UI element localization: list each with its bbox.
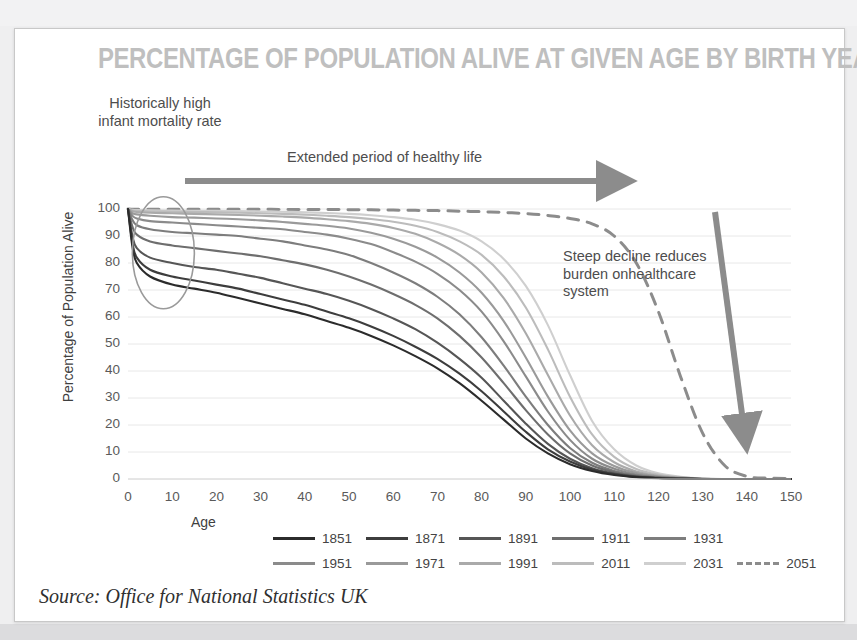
legend-item-1871[interactable]: 1871: [366, 531, 445, 546]
x-tick-label: 0: [108, 489, 148, 504]
x-tick-label: 70: [417, 489, 457, 504]
y-tick-label: 80: [76, 254, 120, 269]
x-tick-label: 10: [152, 489, 192, 504]
y-tick-label: 60: [76, 308, 120, 323]
legend-item-1971[interactable]: 1971: [366, 556, 445, 571]
legend-item-1911[interactable]: 1911: [552, 531, 630, 546]
legend-label: 1951: [322, 556, 352, 571]
legend-item-2031[interactable]: 2031: [644, 556, 723, 571]
legend-item-1951[interactable]: 1951: [273, 556, 352, 571]
legend-row: 18511871189119111931: [273, 526, 813, 551]
annotation-steep-decline: Steep decline reduces burden onhealthcar…: [563, 248, 713, 301]
legend-swatch-icon: [459, 537, 501, 540]
x-tick-label: 100: [550, 489, 590, 504]
legend-swatch-icon: [273, 562, 315, 565]
background-band-bottom: [0, 624, 857, 640]
chart-legend: 1851187118911911193119511971199120112031…: [273, 526, 813, 576]
y-tick-label: 90: [76, 227, 120, 242]
legend-swatch-icon: [366, 537, 408, 540]
y-axis-label: Percentage of Population Alive: [60, 192, 76, 422]
background-band-top: [0, 0, 857, 26]
legend-swatch-icon: [737, 562, 779, 565]
annotation-extended-healthy-life: Extended period of healthy life: [287, 149, 482, 167]
legend-label: 2051: [786, 556, 816, 571]
x-tick-label: 150: [771, 489, 811, 504]
y-tick-label: 50: [76, 335, 120, 350]
x-axis-label: Age: [191, 514, 216, 530]
y-tick-label: 0: [76, 470, 120, 485]
legend-item-1991[interactable]: 1991: [459, 556, 538, 571]
legend-swatch-icon: [644, 537, 686, 540]
legend-swatch-icon: [273, 537, 315, 540]
legend-item-2011[interactable]: 2011: [552, 556, 630, 571]
legend-label: 1851: [322, 531, 352, 546]
legend-swatch-icon: [366, 562, 408, 565]
legend-label: 1871: [415, 531, 445, 546]
x-tick-label: 30: [241, 489, 281, 504]
y-tick-label: 30: [76, 389, 120, 404]
legend-label: 1971: [415, 556, 445, 571]
legend-item-1931[interactable]: 1931: [644, 531, 723, 546]
legend-row: 195119711991201120312051: [273, 551, 813, 576]
legend-label: 2031: [693, 556, 723, 571]
screenshot-stage: PERCENTAGE OF POPULATION ALIVE AT GIVEN …: [0, 0, 857, 640]
y-tick-label: 20: [76, 416, 120, 431]
y-tick-label: 10: [76, 443, 120, 458]
y-tick-label: 70: [76, 281, 120, 296]
x-tick-label: 60: [373, 489, 413, 504]
x-tick-label: 50: [329, 489, 369, 504]
legend-swatch-icon: [459, 562, 501, 565]
legend-swatch-icon: [644, 562, 686, 565]
x-tick-label: 90: [506, 489, 546, 504]
legend-label: 1931: [693, 531, 723, 546]
x-tick-label: 130: [683, 489, 723, 504]
x-tick-label: 20: [196, 489, 236, 504]
legend-swatch-icon: [552, 537, 594, 540]
x-tick-label: 120: [638, 489, 678, 504]
annotation-arrow-steep-decline: [715, 212, 746, 444]
x-tick-label: 40: [285, 489, 325, 504]
legend-swatch-icon: [552, 562, 594, 565]
legend-item-2051[interactable]: 2051: [737, 556, 816, 571]
x-tick-label: 110: [594, 489, 634, 504]
y-tick-label: 100: [76, 200, 120, 215]
source-note: Source: Office for National Statistics U…: [39, 585, 368, 608]
annotation-infant-mortality: Historically high infant mortality rate: [95, 95, 225, 130]
legend-label: 1991: [508, 556, 538, 571]
y-tick-label: 40: [76, 362, 120, 377]
legend-item-1851[interactable]: 1851: [273, 531, 352, 546]
x-tick-label: 140: [727, 489, 767, 504]
legend-item-1891[interactable]: 1891: [459, 531, 538, 546]
x-tick-label: 80: [462, 489, 502, 504]
chart-card: PERCENTAGE OF POPULATION ALIVE AT GIVEN …: [14, 28, 845, 622]
legend-label: 1911: [601, 531, 630, 546]
legend-label: 2011: [601, 556, 630, 571]
legend-label: 1891: [508, 531, 538, 546]
